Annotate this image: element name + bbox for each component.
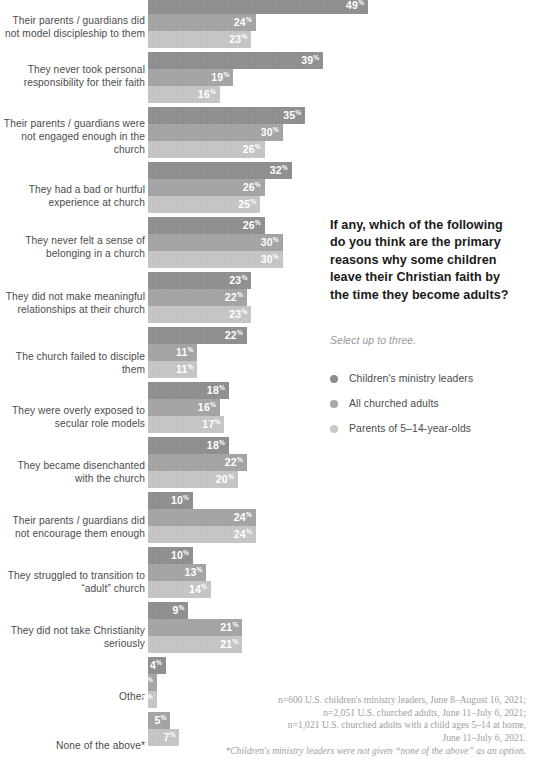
bar-value-label: 18% [201, 382, 225, 399]
bar-value-label: 18% [201, 437, 225, 454]
bar-group-label: Other [0, 690, 145, 703]
bar-group-label: Their parents / guardians were not engag… [0, 117, 145, 157]
legend-item: All churched adults [330, 391, 530, 416]
bar-group-label: Their parents / guardians did not model … [0, 14, 145, 40]
legend-dot-icon [330, 400, 338, 408]
bar-value-label: 30% [255, 124, 279, 141]
bar-value-label: 14% [183, 581, 207, 598]
bar-value-label: 16% [192, 86, 216, 103]
bar-value-label: 2% [129, 691, 153, 708]
bar-value-label: 24% [228, 509, 252, 526]
bar-value-label: 30% [255, 251, 279, 268]
bar-group-label: They had a bad or hurtful experience at … [0, 183, 145, 209]
bar-value-label: 7% [151, 729, 175, 746]
bar-group-label: They did not take Christianity seriously [0, 624, 145, 650]
bar-group-label: None of the above* [0, 739, 145, 752]
bar-value-label: 22% [219, 327, 243, 344]
legend-item: Parents of 5–14-year-olds [330, 416, 530, 441]
legend-label: Children's ministry leaders [349, 373, 473, 384]
footnote-line-4: June 11–July 6, 2021. [442, 732, 526, 743]
legend-dot-icon [330, 375, 338, 383]
bar-value-label: 2% [129, 674, 153, 691]
bar-value-label: 10% [165, 492, 189, 509]
legend-item: Children's ministry leaders [330, 366, 530, 391]
bar-value-label: 22% [219, 289, 243, 306]
footnote-line-2: n=2,051 U.S. churched adults, June 11–Ju… [323, 707, 526, 718]
bar-group-label: They never felt a sense of belonging in … [0, 234, 145, 260]
bar-value-label: 21% [214, 636, 238, 653]
legend-dot-icon [330, 425, 338, 433]
bar-value-label: 10% [165, 547, 189, 564]
chart-subnote: Select up to three. [330, 335, 520, 346]
bar-value-label: 5% [142, 712, 166, 729]
bar-value-label: 11% [169, 361, 193, 378]
bar-value-label: 16% [192, 399, 216, 416]
bar-value-label: 32% [264, 162, 288, 179]
bar-value-label: 11% [169, 344, 193, 361]
bar-value-label: 24% [228, 14, 252, 31]
stacked-bar-chart: Their parents / guardians did not model … [0, 0, 535, 762]
bar-value-label: 25% [232, 196, 256, 213]
bar-value-label: 21% [214, 619, 238, 636]
bar-group-label: Their parents / guardians did not encour… [0, 514, 145, 540]
bar-group-label: They became disenchanted with the church [0, 459, 145, 485]
bar-group-label: The church failed to disciple them [0, 350, 145, 376]
bar-value-label: 4% [138, 657, 162, 674]
bar-value-label: 17% [196, 416, 220, 433]
bar-fill [148, 0, 368, 14]
chart-footnote: n=600 U.S. children's ministry leaders, … [196, 694, 526, 757]
legend-label: All churched adults [349, 398, 439, 409]
bar-value-label: 13% [178, 564, 202, 581]
bar-value-label: 39% [295, 52, 319, 69]
bar-value-label: 20% [210, 471, 234, 488]
footnote-line-1: n=600 U.S. children's ministry leaders, … [278, 694, 526, 705]
legend-label: Parents of 5–14-year-olds [349, 423, 471, 434]
bar-group-label: They were overly exposed to secular role… [0, 404, 145, 430]
bar-value-label: 9% [160, 602, 184, 619]
bar-group-label: They never took personal responsibility … [0, 63, 145, 89]
bar-value-label: 35% [277, 107, 301, 124]
footnote-asterisk-note: *Children's ministry leaders were not gi… [196, 745, 526, 758]
footnote-line-3: n=1,021 U.S. churched adults with a chil… [288, 719, 526, 730]
bar-value-label: 26% [237, 179, 261, 196]
bar-value-label: 26% [237, 141, 261, 158]
bar-value-label: 23% [223, 31, 247, 48]
bar-value-label: 22% [219, 454, 243, 471]
chart-question: If any, which of the following do you th… [330, 217, 510, 304]
bar-value-label: 30% [255, 234, 279, 251]
bar-value-label: 23% [223, 272, 247, 289]
bar-value-label: 49% [340, 0, 364, 14]
bar-value-label: 23% [223, 306, 247, 323]
bar-value-label: 19% [205, 69, 229, 86]
bar-group-label: They struggled to transition to “adult” … [0, 569, 145, 595]
bar-group-label: They did not make meaningful relationshi… [0, 290, 145, 316]
bar-value-label: 26% [237, 217, 261, 234]
bar-value-label: 24% [228, 526, 252, 543]
chart-legend: Children's ministry leadersAll churched … [330, 366, 530, 441]
